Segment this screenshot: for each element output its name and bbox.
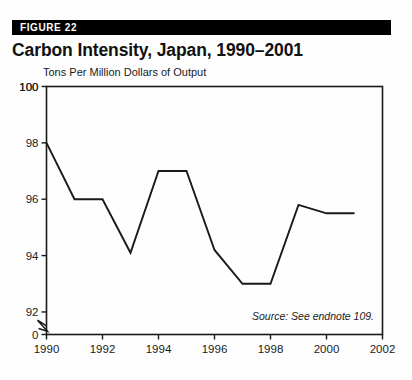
line-chart: 929496981001000 199019921994199619982000… xyxy=(0,0,412,380)
y-tick-label: 92 xyxy=(26,306,39,318)
x-tick-label: 1998 xyxy=(258,343,284,355)
x-tick-label: 2002 xyxy=(370,343,396,355)
y-tick-label: 96 xyxy=(26,193,39,205)
x-tick-label: 1996 xyxy=(202,343,228,355)
data-series-line xyxy=(47,143,355,284)
x-tick-label: 1992 xyxy=(90,343,116,355)
x-tick-label: 2000 xyxy=(314,343,340,355)
figure-container: FIGURE 22 Carbon Intensity, Japan, 1990–… xyxy=(0,0,412,380)
y-axis-tick-labels: 929496981001000 xyxy=(19,81,39,341)
y-tick-label-zero: 0 xyxy=(32,329,38,341)
y-tick-label-max: 100 xyxy=(19,81,38,93)
x-axis-tick-labels: 1990199219941996199820002002 xyxy=(34,343,396,355)
y-tick-label: 98 xyxy=(26,137,39,149)
x-tick-label: 1994 xyxy=(146,343,172,355)
plot-frame xyxy=(47,87,383,335)
y-tick-label: 94 xyxy=(26,250,39,262)
plot-frame-rect xyxy=(47,87,383,335)
x-tick-label: 1990 xyxy=(34,343,60,355)
source-note: Source: See endnote 109. xyxy=(252,310,374,322)
